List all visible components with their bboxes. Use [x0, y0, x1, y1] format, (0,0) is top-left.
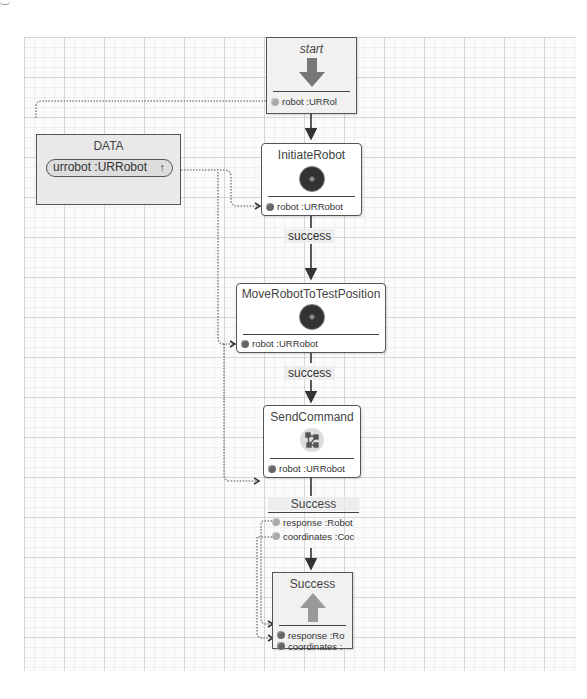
outcome-port-coordinates[interactable]: coordinates :Coc	[268, 530, 359, 542]
data-panel-title: DATA	[37, 139, 180, 153]
node-start-port-robot[interactable]: robot :URRol	[267, 96, 356, 107]
data-variable-label: urrobot :URRobot	[53, 160, 147, 174]
output-port-icon	[272, 518, 280, 526]
input-port-icon	[241, 340, 249, 348]
output-port-icon	[271, 98, 279, 106]
node-end-success[interactable]: Success response :Ro coordinates :	[272, 572, 353, 649]
edge-label-success-1: success	[285, 229, 334, 243]
node-end-port-coordinates[interactable]: coordinates :	[273, 642, 352, 650]
down-arrow-icon	[298, 58, 326, 88]
node-move-port-robot[interactable]: robot :URRobot	[237, 338, 385, 349]
edge-label-success-2: success	[285, 366, 334, 380]
up-arrow-icon	[299, 593, 327, 623]
network-icon	[300, 428, 324, 452]
outcome-success[interactable]: Success response :Robot coordinates :Coc	[268, 497, 359, 549]
node-end-title: Success	[273, 577, 352, 591]
data-panel[interactable]: DATA urrobot :URRobot ↑	[36, 134, 181, 205]
input-port-icon	[268, 465, 276, 473]
up-arrow-icon: ↑	[160, 160, 166, 175]
node-start-title: start	[267, 42, 356, 56]
node-move-robot[interactable]: MoveRobotToTestPosition robot :URRobot	[236, 283, 386, 353]
node-initiate-port-robot[interactable]: robot :URRobot	[262, 201, 361, 212]
node-send-title: SendCommand	[264, 410, 360, 424]
corner-mark	[0, 0, 10, 5]
node-move-title: MoveRobotToTestPosition	[237, 287, 385, 301]
data-variable-urrobot[interactable]: urrobot :URRobot ↑	[46, 159, 173, 177]
gear-icon	[299, 166, 325, 192]
input-port-icon	[277, 631, 285, 639]
node-send-port-robot[interactable]: robot :URRobot	[264, 463, 360, 474]
input-port-icon	[277, 642, 285, 650]
gear-icon	[299, 304, 325, 330]
node-end-port-response[interactable]: response :Ro	[273, 629, 352, 641]
node-start[interactable]: start robot :URRol	[266, 37, 357, 114]
node-initiate-title: InitiateRobot	[262, 148, 361, 162]
node-send-command[interactable]: SendCommand robot :URRobot	[263, 405, 361, 478]
input-port-icon	[266, 203, 274, 211]
node-initiate-robot[interactable]: InitiateRobot robot :URRobot	[261, 143, 362, 216]
outcome-port-response[interactable]: response :Robot	[268, 516, 359, 528]
output-port-icon	[272, 532, 280, 540]
outcome-success-title: Success	[268, 497, 359, 511]
